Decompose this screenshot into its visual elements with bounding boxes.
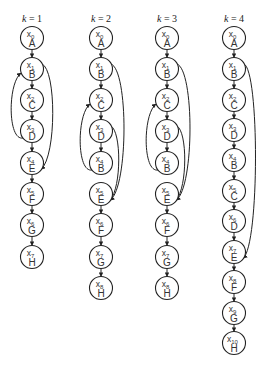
state-node: x1B (156, 58, 179, 81)
node-label: G (28, 225, 36, 236)
node-label: C (163, 100, 170, 111)
column-title: k = 1 (22, 13, 42, 24)
node-label: A (231, 38, 238, 49)
state-node: x2C (156, 89, 179, 112)
state-node: x8H (156, 277, 179, 300)
state-node: x6G (21, 214, 44, 237)
node-label: D (230, 130, 237, 141)
node-label: F (29, 194, 35, 205)
node-label: A (29, 38, 36, 49)
state-node: x0A (21, 27, 44, 50)
state-node: x8H (90, 277, 113, 300)
column-k4: k = 4x0Ax1Bx2Cx3Dx4Bx5Cx6Dx7Ex8Fx9Gx10H (223, 13, 256, 355)
state-node: x4B (223, 149, 246, 172)
node-label: A (164, 38, 171, 49)
column-title: k = 3 (157, 13, 177, 24)
node-label: E (98, 194, 105, 205)
state-node: x3D (156, 120, 179, 143)
node-label: C (230, 100, 237, 111)
state-node: x9G (223, 302, 246, 325)
node-label: G (163, 257, 171, 268)
node-label: F (231, 282, 237, 293)
node-label: B (231, 160, 238, 171)
node-label: B (231, 69, 238, 80)
state-node: x6F (156, 214, 179, 237)
state-node: x5F (21, 183, 44, 206)
state-node: x0A (90, 27, 113, 50)
state-node: x2C (90, 89, 113, 112)
node-label: B (98, 163, 105, 174)
node-label: F (164, 225, 170, 236)
node-label: G (97, 257, 105, 268)
state-node: x7G (156, 246, 179, 269)
loop-edge (41, 64, 53, 170)
node-label: C (230, 191, 237, 202)
node-label: D (28, 131, 35, 142)
state-node: x2C (21, 89, 44, 112)
node-label: B (164, 163, 171, 174)
state-node: x0A (223, 27, 246, 50)
node-label: E (164, 194, 171, 205)
node-label: D (230, 221, 237, 232)
node-label: E (231, 252, 238, 263)
node-label: F (98, 225, 104, 236)
node-label: D (163, 131, 170, 142)
state-node: x8F (223, 271, 246, 294)
state-node: x10H (223, 332, 246, 355)
state-node: x5E (90, 183, 113, 206)
node-label: B (29, 69, 36, 80)
state-node: x6F (90, 214, 113, 237)
state-node: x3D (90, 120, 113, 143)
node-label: A (98, 38, 105, 49)
k-unrolling-diagram: k = 1x0Ax1Bx2Cx3Dx4Ex5Fx6Gx7H k = 2x0Ax1… (0, 0, 267, 367)
state-node: x3D (21, 120, 44, 143)
node-label: E (29, 163, 36, 174)
state-node: x7H (21, 246, 44, 269)
state-node: x5C (223, 180, 246, 203)
column-k2: k = 2x0Ax1Bx2Cx3Dx4Bx5Ex6Fx7Gx8H (80, 13, 124, 300)
state-node: x4B (156, 152, 179, 175)
node-label: C (28, 100, 35, 111)
node-label: C (97, 100, 104, 111)
state-node: x6D (223, 210, 246, 233)
node-label: D (97, 131, 104, 142)
state-node: x7G (90, 246, 113, 269)
state-node: x0A (156, 27, 179, 50)
column-k1: k = 1x0Ax1Bx2Cx3Dx4Ex5Fx6Gx7H (11, 13, 53, 269)
state-node: x1B (21, 58, 44, 81)
node-label: B (164, 69, 171, 80)
node-label: H (28, 257, 35, 268)
node-label: B (98, 69, 105, 80)
state-node: x1B (90, 58, 113, 81)
column-title: k = 4 (224, 13, 244, 24)
state-node: x3D (223, 119, 246, 142)
state-node: x4B (90, 152, 113, 175)
state-node: x5E (156, 183, 179, 206)
column-title: k = 2 (91, 13, 111, 24)
node-label: H (97, 288, 104, 299)
node-label: H (230, 343, 237, 354)
state-node: x4E (21, 152, 44, 175)
node-label: H (163, 288, 170, 299)
state-node: x2C (223, 89, 246, 112)
state-node: x1B (223, 58, 246, 81)
state-node: x7E (223, 241, 246, 264)
column-k3: k = 3x0Ax1Bx2Cx3Dx4Bx5Ex6Fx7Gx8H (146, 13, 190, 300)
node-label: G (230, 313, 238, 324)
